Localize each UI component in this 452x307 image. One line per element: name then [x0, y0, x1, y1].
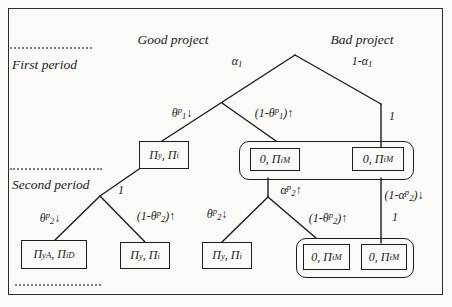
- label-one-minus-theta-p2-up-mid: (1-θp2)↑: [309, 211, 348, 225]
- edge-root-to-first-good: [162, 55, 295, 141]
- label-first-period: First period: [12, 58, 77, 72]
- label-alpha1: α1: [232, 54, 243, 68]
- label-one-minus-alpha-p2-down: (1-αp2)↓: [385, 188, 424, 202]
- label-one-minus-theta-p1-up: (1-θp1)↑: [255, 106, 294, 120]
- decision-tree-figure: { "headers": { "good_project": "Good pro…: [0, 0, 452, 307]
- payoff-box-second-good: Πy, Πi: [120, 242, 170, 269]
- label-second-period: Second period: [12, 178, 90, 192]
- separator-first-period: [10, 47, 92, 49]
- payoff-box-second-pool-right: 0, ΠiM: [361, 244, 407, 270]
- separator-second-period: [10, 168, 102, 170]
- label-theta-p1-down: θp1↓: [172, 106, 193, 120]
- label-good-project: Good project: [137, 33, 208, 47]
- payoff-box-second-mid: Πy, Πi: [202, 242, 252, 269]
- payoff-box-second-separating: ΠyA, ΠiD: [21, 240, 87, 269]
- label-alpha-p2-up: αp2↑: [281, 183, 302, 197]
- label-theta-p2-down-left: θp2↓: [40, 211, 61, 225]
- label-theta-p2-down-mid: θp2↓: [207, 207, 228, 221]
- label-one-minus-theta-p2-up-left: (1-θp2)↑: [137, 209, 176, 223]
- label-bad-project: Bad project: [331, 33, 394, 47]
- edge-second-sep-down: [55, 196, 100, 240]
- label-one-minus-alpha1: 1-α1: [352, 54, 373, 68]
- payoff-box-first-good: Πy, Πi: [139, 141, 189, 169]
- label-prob-one-second-left: 1: [118, 183, 124, 197]
- label-prob-one-first-right: 1: [389, 109, 395, 123]
- payoff-box-first-pool-right: 0, ΠiM: [352, 147, 404, 171]
- payoff-box-second-pool-left: 0, ΠiM: [303, 244, 350, 270]
- payoff-box-first-pool-left: 0, ΠiM: [250, 148, 300, 171]
- separator-bottom: [15, 284, 101, 286]
- label-prob-one-second-right: 1: [392, 210, 398, 224]
- edge-second-pool-down: [222, 197, 268, 242]
